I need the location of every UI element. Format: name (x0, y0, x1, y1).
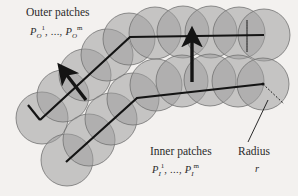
inner-formula-sub-last: I (191, 170, 193, 178)
radius-center-dot (261, 82, 264, 85)
inner-formula-sup-last: m (194, 162, 199, 170)
inner-formula-sub-first: I (158, 170, 160, 178)
inner-patches-formula: PI1, ..., PIm (152, 163, 199, 178)
outer-formula-sup-last: m (77, 24, 82, 32)
outer-formula-dots: , ..., (45, 26, 65, 37)
inner-formula-dots: , ..., (164, 164, 184, 175)
outer-formula-sub-last: O (72, 32, 77, 40)
outer-formula-sub-first: O (36, 32, 41, 40)
radius-label: Radius (238, 145, 270, 157)
outer-patches-formula: PO1, ..., POm (30, 25, 82, 40)
inner-patches-label: Inner patches (150, 145, 212, 157)
radius-symbol-label: r (255, 163, 259, 174)
outer-patches-label: Outer patches (26, 6, 90, 18)
